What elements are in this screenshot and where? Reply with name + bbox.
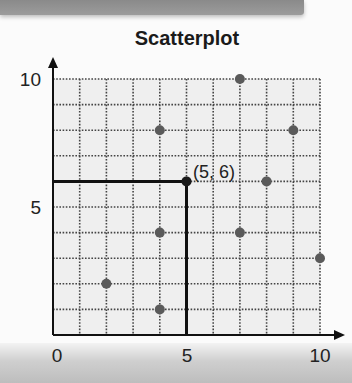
data-point [155, 228, 165, 238]
x-tick-label-0: 0 [52, 345, 63, 366]
y-axis-arrow-icon [48, 57, 58, 68]
data-point [235, 74, 245, 84]
highlighted-data-point [182, 176, 192, 186]
data-point [315, 253, 325, 263]
y-tick-label-5: 5 [30, 197, 41, 218]
data-point [155, 125, 165, 135]
data-point [235, 228, 245, 238]
data-point [101, 279, 111, 289]
data-point [288, 125, 298, 135]
data-point [155, 304, 165, 314]
data-point [262, 176, 272, 186]
x-tick-label-5: 5 [182, 345, 193, 366]
x-tick-label-10: 10 [309, 345, 330, 366]
y-tick-label-10: 10 [20, 69, 41, 90]
point-annotation: (5, 6) [193, 162, 235, 182]
scatter-plot: 0 5 10 5 10 (5, 6) [0, 0, 352, 383]
x-axis-arrow-icon [334, 330, 345, 340]
